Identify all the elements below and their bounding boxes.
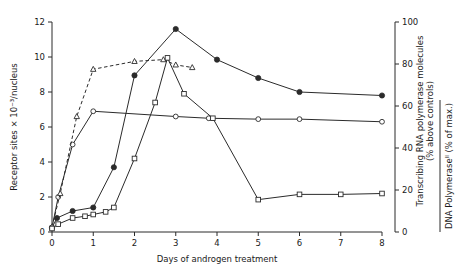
figure-container: 024681012Receptor sites × 10⁻³/nucleus01…: [0, 0, 469, 278]
y-tick-label-left: 10: [34, 52, 45, 62]
data-point-filled-circle: [54, 215, 59, 220]
data-point-open-circle: [256, 117, 261, 122]
data-point-open-square: [50, 226, 55, 231]
series-filled-circle-solid: [49, 26, 384, 230]
series-open-circle-solid-plateau: [50, 109, 385, 230]
data-point-filled-circle: [173, 26, 178, 31]
series-open-triangle-dashed: [49, 57, 195, 229]
x-tick-label: 7: [338, 238, 343, 248]
data-point-open-square: [182, 91, 187, 96]
data-point-open-square: [153, 100, 158, 105]
x-tick-label: 3: [173, 238, 178, 248]
data-point-open-square: [256, 197, 261, 202]
series-line-open-square-solid: [52, 58, 382, 229]
y-tick-label-right: 20: [402, 185, 413, 195]
series-line-open-circle-solid-plateau: [52, 111, 382, 227]
x-tick-label: 8: [379, 238, 384, 248]
data-point-open-triangle: [173, 62, 178, 67]
data-point-open-triangle: [190, 65, 195, 70]
data-point-open-square: [83, 214, 88, 219]
x-tick-label: 4: [214, 238, 219, 248]
data-point-filled-circle: [256, 75, 261, 80]
data-point-open-square: [70, 216, 75, 221]
data-point-open-square: [165, 56, 170, 61]
data-point-open-square: [91, 212, 96, 217]
data-point-open-circle: [380, 119, 385, 124]
data-point-open-triangle: [74, 114, 79, 119]
y-tick-label-left: 8: [40, 87, 45, 97]
x-tick-label: 0: [49, 238, 54, 248]
data-point-open-square: [297, 192, 302, 197]
y-tick-label-left: 4: [40, 157, 45, 167]
chart-svg: 024681012Receptor sites × 10⁻³/nucleus01…: [0, 0, 469, 278]
data-point-filled-circle: [91, 205, 96, 210]
y-tick-label-right: 60: [402, 101, 413, 111]
data-point-open-triangle: [58, 191, 63, 196]
data-point-open-square: [56, 222, 61, 227]
y-tick-label-left: 6: [40, 122, 45, 132]
data-point-open-square: [211, 116, 216, 121]
y-tick-label-right: 80: [402, 59, 413, 69]
data-point-filled-circle: [70, 208, 75, 213]
y-tick-label-right: 100: [402, 17, 418, 27]
data-point-filled-circle: [297, 89, 302, 94]
data-point-open-square: [103, 210, 108, 215]
data-point-open-square: [112, 205, 117, 210]
y-tick-label-right: 40: [402, 143, 413, 153]
data-point-open-square: [380, 191, 385, 196]
data-point-open-square: [338, 192, 343, 197]
series-open-square-solid: [50, 56, 385, 231]
x-tick-label: 5: [256, 238, 261, 248]
data-point-filled-circle: [111, 165, 116, 170]
plot-group: 024681012Receptor sites × 10⁻³/nucleus01…: [9, 17, 454, 264]
y-axis-label-left: Receptor sites × 10⁻³/nucleus: [9, 63, 19, 191]
x-tick-label: 1: [91, 238, 96, 248]
data-point-filled-circle: [379, 93, 384, 98]
y-axis-label-right-dna: DNA Polymeraseᴵᴵ (% of max.): [444, 103, 454, 229]
data-point-open-square: [132, 156, 137, 161]
x-axis-label: Days of androgen treatment: [157, 254, 278, 264]
x-tick-label: 2: [132, 238, 137, 248]
y-axis-label-right-rna: Transcribing RNA polymerase molecules: [415, 35, 425, 207]
y-tick-label-left: 12: [34, 17, 45, 27]
data-point-filled-circle: [214, 57, 219, 62]
data-point-filled-circle: [132, 73, 137, 78]
y-tick-label-right: 0: [402, 227, 407, 237]
data-point-open-circle: [91, 109, 96, 114]
y-tick-label-left: 2: [40, 192, 45, 202]
y-axis-label-right-rna-units: (% above controls): [425, 81, 435, 161]
data-point-open-circle: [173, 114, 178, 119]
y-tick-label-left: 0: [40, 227, 45, 237]
data-point-open-circle: [297, 117, 302, 122]
x-tick-label: 6: [297, 238, 302, 248]
